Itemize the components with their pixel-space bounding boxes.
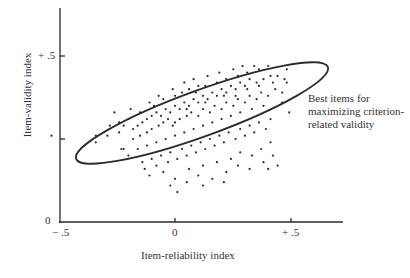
data-point xyxy=(186,181,188,183)
data-point xyxy=(181,148,183,150)
data-point xyxy=(120,148,122,150)
x-axis-label: Item-reliability index xyxy=(141,249,235,261)
data-point xyxy=(251,155,253,157)
data-point xyxy=(260,148,262,150)
data-point xyxy=(262,161,264,163)
data-point xyxy=(283,78,285,80)
data-point xyxy=(181,91,183,93)
data-point xyxy=(230,158,232,160)
data-point xyxy=(246,88,248,90)
data-point xyxy=(144,168,146,170)
data-point xyxy=(202,184,204,186)
data-point xyxy=(165,108,167,110)
data-point xyxy=(202,165,204,167)
data-point xyxy=(221,118,223,120)
data-point xyxy=(176,158,178,160)
data-point xyxy=(209,111,211,113)
data-point xyxy=(281,91,283,93)
annotation-line-3: related validity xyxy=(308,118,404,131)
data-point xyxy=(113,111,115,113)
data-point xyxy=(244,135,246,137)
data-point xyxy=(165,138,167,140)
data-point xyxy=(225,171,227,173)
data-point xyxy=(169,151,171,153)
data-point xyxy=(186,155,188,157)
data-point xyxy=(232,68,234,70)
data-point xyxy=(218,72,220,74)
data-point xyxy=(50,135,52,137)
data-point xyxy=(237,98,239,100)
data-point xyxy=(211,121,213,123)
data-point xyxy=(167,118,169,120)
data-point xyxy=(162,121,164,123)
data-point xyxy=(188,88,190,90)
data-point xyxy=(137,148,139,150)
data-point xyxy=(146,118,148,120)
data-point xyxy=(223,141,225,143)
y-tick-label-0: 0 xyxy=(45,214,51,226)
data-point xyxy=(216,161,218,163)
data-point xyxy=(162,171,164,173)
data-point xyxy=(239,111,241,113)
data-point xyxy=(118,131,120,133)
data-point xyxy=(186,115,188,117)
data-point xyxy=(174,105,176,107)
x-tick-label-0: 0 xyxy=(172,226,178,238)
data-point xyxy=(179,108,181,110)
data-point xyxy=(141,161,143,163)
data-point xyxy=(172,88,174,90)
data-point xyxy=(174,178,176,180)
x-tick-label-neg0.5: − .5 xyxy=(52,226,69,238)
data-point xyxy=(256,82,258,84)
data-point xyxy=(286,68,288,70)
data-point xyxy=(151,128,153,130)
data-point xyxy=(197,85,199,87)
data-point xyxy=(183,101,185,103)
data-point xyxy=(244,85,246,87)
data-point xyxy=(249,125,251,127)
data-point xyxy=(269,141,271,143)
data-point xyxy=(146,145,148,147)
data-point xyxy=(106,135,108,137)
data-point xyxy=(258,85,260,87)
data-point xyxy=(230,115,232,117)
data-point xyxy=(267,65,269,67)
data-point xyxy=(235,138,237,140)
data-point xyxy=(253,131,255,133)
data-point xyxy=(195,151,197,153)
data-point xyxy=(172,125,174,127)
data-point xyxy=(151,158,153,160)
data-point xyxy=(221,108,223,110)
data-point xyxy=(232,105,234,107)
data-point xyxy=(269,118,271,120)
y-axis-label: Item-validity index xyxy=(21,53,33,138)
data-point xyxy=(123,148,125,150)
data-point xyxy=(193,78,195,80)
data-point xyxy=(188,105,190,107)
data-point xyxy=(95,141,97,143)
data-point xyxy=(169,111,171,113)
data-point xyxy=(193,98,195,100)
data-point xyxy=(204,148,206,150)
data-point xyxy=(179,118,181,120)
data-point xyxy=(200,141,202,143)
data-point xyxy=(183,82,185,84)
data-point xyxy=(202,125,204,127)
data-point xyxy=(167,161,169,163)
data-point xyxy=(132,128,134,130)
data-point xyxy=(225,91,227,93)
data-point xyxy=(244,101,246,103)
data-point xyxy=(193,128,195,130)
data-point xyxy=(197,115,199,117)
data-point xyxy=(242,65,244,67)
x-tick-label-0.5: + .5 xyxy=(282,226,299,238)
data-point xyxy=(207,75,209,77)
data-point xyxy=(288,111,290,113)
data-point xyxy=(276,165,278,167)
annotation-best-items: Best items for maximizing criterion- rel… xyxy=(308,92,404,131)
data-point xyxy=(251,108,253,110)
annotation-line-2: maximizing criterion- xyxy=(308,105,404,118)
annotation-line-1: Best items for xyxy=(308,92,404,105)
best-items-ellipse xyxy=(68,46,336,181)
data-point xyxy=(216,95,218,97)
